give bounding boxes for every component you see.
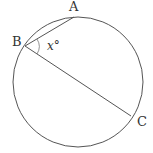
point-label-b: B: [12, 34, 22, 49]
circle-diagram: A B C x°: [0, 0, 153, 153]
point-label-a: A: [68, 0, 79, 14]
chord-bc: [25, 46, 131, 116]
angle-arc: [37, 39, 39, 54]
circle: [13, 17, 143, 147]
point-label-c: C: [137, 114, 147, 129]
angle-label: x°: [47, 39, 60, 53]
